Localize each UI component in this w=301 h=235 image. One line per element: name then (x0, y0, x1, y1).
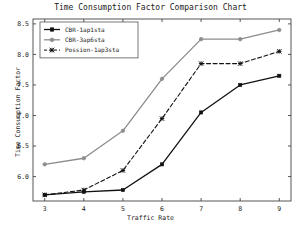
x-tick-label: 8 (238, 205, 242, 213)
legend-label: CBR-3ap6sta (65, 36, 105, 44)
legend-label: CBR-1ap1sta (65, 26, 105, 34)
chart-container: Time Consumption Factor Comparison Chart… (0, 0, 301, 235)
x-tick-label: 6 (160, 205, 164, 213)
y-tick-label: 8.5 (17, 20, 29, 28)
x-tick-label: 5 (121, 205, 125, 213)
y-tick-label: 7.0 (17, 112, 29, 120)
y-tick-label: 6.0 (17, 173, 29, 181)
data-series (43, 49, 282, 197)
legend-marker (50, 48, 55, 53)
x-tick-label: 4 (82, 205, 86, 213)
legend-marker (50, 28, 53, 31)
legend-label: Possion-1ap3sta (65, 46, 120, 54)
x-tick-label: 9 (277, 205, 281, 213)
y-tick-label: 6.5 (17, 142, 29, 150)
y-tick-label: 7.5 (17, 81, 29, 89)
chart-legend: CBR-1ap1staCBR-3ap6staPossion-1ap3sta (40, 22, 138, 58)
x-tick-label: 7 (199, 205, 203, 213)
data-series (43, 74, 281, 196)
y-tick-label: 8.0 (17, 51, 29, 59)
legend-marker (50, 38, 54, 42)
x-tick-label: 3 (43, 205, 47, 213)
plot-area: 6.06.57.07.58.08.53456789 CBR-1ap1staCBR… (0, 0, 301, 235)
